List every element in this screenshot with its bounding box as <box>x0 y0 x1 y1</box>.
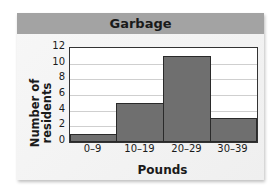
y-tick-12: 12 <box>51 40 65 51</box>
y-tick-0: 0 <box>51 134 65 145</box>
x-tick-20-29: 20–29 <box>163 143 210 154</box>
x-tick-0-9: 0–9 <box>69 143 116 154</box>
bar-30-39 <box>210 118 257 142</box>
x-tick-10-19: 10–19 <box>116 143 163 154</box>
y-tick-10: 10 <box>51 56 65 67</box>
bar-0-9 <box>70 134 117 142</box>
chart-title: Garbage <box>17 13 264 34</box>
plot-area <box>69 47 258 143</box>
y-tick-6: 6 <box>51 87 65 98</box>
bar-20-29 <box>163 56 211 142</box>
y-tick-4: 4 <box>51 103 65 114</box>
x-axis-label: Pounds <box>69 163 256 177</box>
y-axis-label: Number of residents <box>31 68 51 158</box>
y-tick-8: 8 <box>51 71 65 82</box>
chart-panel: Garbage Number of residents 12 10 8 6 4 … <box>17 13 264 180</box>
y-tick-2: 2 <box>51 118 65 129</box>
x-tick-30-39: 30–39 <box>209 143 256 154</box>
bar-10-19 <box>116 103 164 142</box>
